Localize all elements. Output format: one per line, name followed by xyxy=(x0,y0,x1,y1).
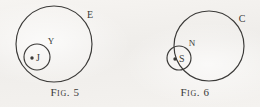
outer-circle-label-C: C xyxy=(239,13,246,24)
figure-plate: E Y J Fig. 5 C N S Fig. 6 xyxy=(0,0,260,107)
outer-circle-label-E: E xyxy=(87,9,93,20)
outer-circle-C xyxy=(174,11,244,81)
center-point-label-S: S xyxy=(179,53,185,64)
inner-circle-label-N: N xyxy=(189,38,196,48)
figure-6-diagram: C N S xyxy=(130,0,260,88)
center-point-label-J: J xyxy=(36,52,40,63)
figure-5-caption: Fig. 5 xyxy=(0,86,130,98)
figure-6-ink xyxy=(167,11,244,81)
inner-circle-label-Y: Y xyxy=(48,36,55,46)
figure-5-diagram: E Y J xyxy=(0,0,130,88)
figure-5: E Y J Fig. 5 xyxy=(0,0,130,107)
figure-6: C N S Fig. 6 xyxy=(130,0,260,107)
center-dot-J xyxy=(30,56,33,59)
figure-6-caption: Fig. 6 xyxy=(130,86,260,98)
center-dot-S xyxy=(173,57,176,60)
